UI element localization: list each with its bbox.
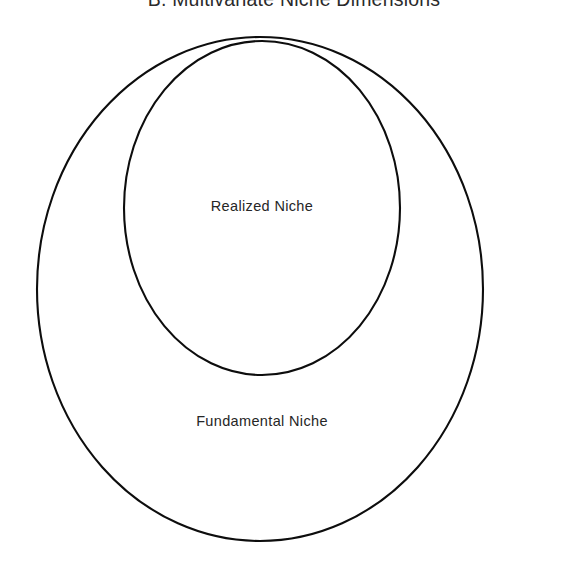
niche-diagram-canvas [0, 0, 588, 567]
realized-niche-label: Realized Niche [0, 198, 524, 214]
fundamental-niche-ellipse [37, 37, 483, 541]
niche-diagram-figure: B. Multivariate Niche Dimensions Realize… [0, 0, 588, 567]
fundamental-niche-label: Fundamental Niche [0, 413, 524, 429]
